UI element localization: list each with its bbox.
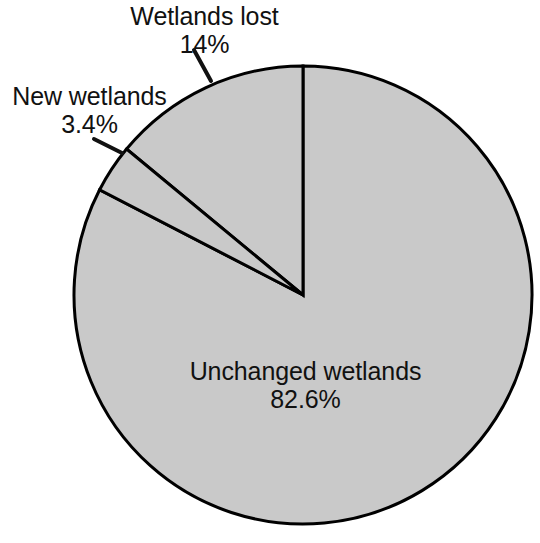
slice-label-new-wetlands-name: New wetlands: [2, 82, 177, 110]
slice-label-unchanged-wetlands: Unchanged wetlands 82.6%: [183, 357, 428, 413]
leader-line-new-wetlands: [94, 139, 122, 153]
slice-label-unchanged-wetlands-value: 82.6%: [183, 385, 428, 413]
slice-label-unchanged-wetlands-name: Unchanged wetlands: [183, 357, 428, 385]
slice-label-wetlands-lost-value: 14%: [112, 30, 297, 58]
slice-label-wetlands-lost: Wetlands lost 14%: [112, 2, 297, 58]
pie-chart-figure: Wetlands lost 14% New wetlands 3.4% Unch…: [0, 0, 540, 543]
slice-label-new-wetlands: New wetlands 3.4%: [2, 82, 177, 138]
slice-label-new-wetlands-value: 3.4%: [2, 110, 177, 138]
slice-label-wetlands-lost-name: Wetlands lost: [112, 2, 297, 30]
